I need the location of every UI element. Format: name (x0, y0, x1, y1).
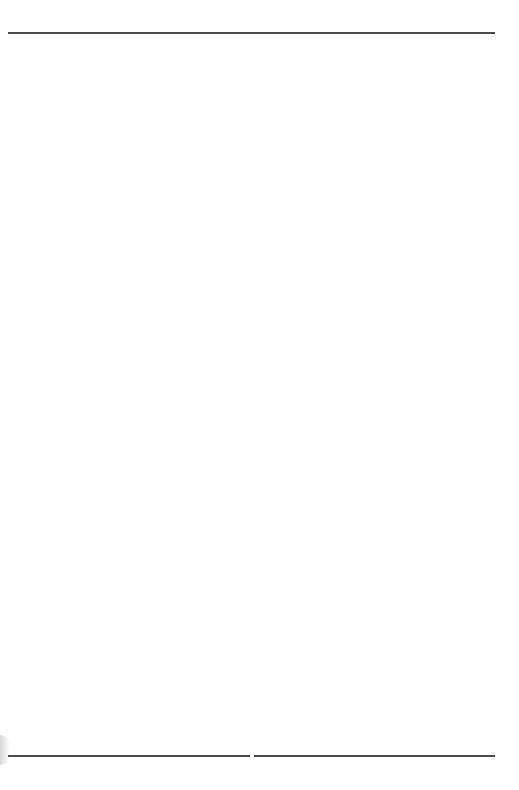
footer-rule-right (254, 755, 496, 757)
page-footer (8, 748, 495, 764)
top-border-rule (8, 32, 495, 34)
notebook-page (0, 0, 519, 790)
footer-rule-left (8, 755, 250, 757)
